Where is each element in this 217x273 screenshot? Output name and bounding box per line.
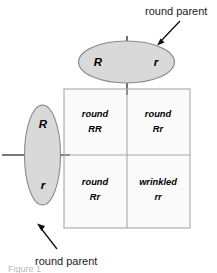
bottom-annotation-label: round parent (35, 255, 97, 267)
punnett-cell-1-0-phenotype: round (82, 177, 109, 187)
top-parent-allele-left: R (94, 56, 103, 68)
top-annotation-label: round parent (145, 5, 207, 17)
punnett-cell-0-0-genotype: RR (88, 124, 102, 134)
punnett-cell-1-0-genotype: Rr (90, 192, 102, 202)
top-annotation-arrow-icon (157, 21, 180, 46)
punnett-cell-0-1-genotype: Rr (153, 124, 165, 134)
left-parent-allele-top: R (39, 118, 48, 130)
left-parent-allele-bottom: r (41, 179, 46, 191)
punnett-cell-0-1-phenotype: round (145, 109, 172, 119)
top-parent-allele-right: r (154, 56, 159, 68)
punnett-cell-0-0-phenotype: round (82, 109, 109, 119)
punnett-square-figure: R r R r round RR round Rr round Rr wrink… (0, 0, 217, 273)
bottom-annotation-arrow-icon (37, 224, 57, 250)
figure-caption: Figure 1 (8, 264, 41, 273)
figure-canvas: R r R r round RR round Rr round Rr wrink… (0, 0, 217, 273)
punnett-cell-1-1-phenotype: wrinkled (139, 177, 177, 187)
